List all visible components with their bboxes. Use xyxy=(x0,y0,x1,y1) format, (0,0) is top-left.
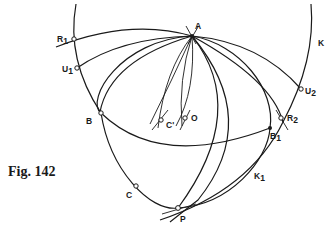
point-B1-marker xyxy=(268,126,272,130)
label-R2: R2 xyxy=(287,113,298,125)
geometry-figure: A R1 U1 U2 R2 B1 B C P C' O K K1 Fig. 14… xyxy=(0,0,332,225)
point-U1-marker xyxy=(75,66,79,70)
label-R1: R1 xyxy=(57,34,68,46)
point-A-marker xyxy=(190,34,194,38)
point-P-marker xyxy=(176,206,181,211)
point-O-marker xyxy=(183,116,187,120)
label-Cprime: C' xyxy=(166,120,174,130)
label-O: O xyxy=(191,113,198,123)
circle-K-right-arc xyxy=(283,4,312,122)
point-U2-marker xyxy=(299,87,303,91)
point-R1-marker xyxy=(72,37,76,41)
label-A: A xyxy=(195,21,201,31)
label-C: C xyxy=(126,190,132,200)
figure-caption: Fig. 142 xyxy=(8,164,55,180)
label-P: P xyxy=(180,214,186,224)
arc-A-R2-through-P xyxy=(160,36,283,220)
point-B-marker xyxy=(99,111,103,115)
arc-U1-A xyxy=(77,36,192,68)
point-Cprime-marker xyxy=(159,118,163,122)
point-C-marker xyxy=(134,184,138,188)
label-U2: U2 xyxy=(305,86,316,98)
arc-A-Cprime xyxy=(158,36,192,128)
construction-diagram: A R1 U1 U2 R2 B1 B C P C' O K K1 xyxy=(0,0,332,225)
label-B: B xyxy=(86,116,92,126)
label-K1: K1 xyxy=(254,171,265,183)
label-U1: U1 xyxy=(62,64,73,76)
circle-K-left-arc xyxy=(74,4,101,113)
point-R2-marker xyxy=(279,116,283,120)
label-K: K xyxy=(318,38,325,48)
